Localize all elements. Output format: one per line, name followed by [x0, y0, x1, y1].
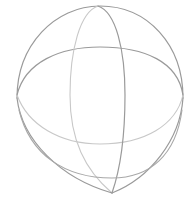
meridian-right-arc [98, 6, 125, 193]
meridian-left-arc [70, 6, 112, 193]
equator-front-arc [17, 47, 183, 95]
equator-back-arc [17, 95, 183, 144]
wireframe-svg [0, 0, 193, 217]
cranium-outline [17, 6, 183, 98]
head-wireframe-diagram [0, 0, 193, 217]
